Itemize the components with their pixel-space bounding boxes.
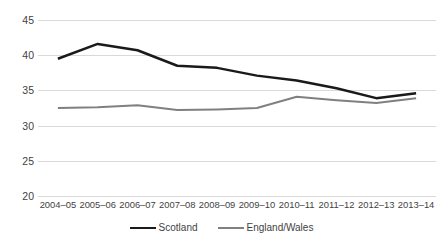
y-tick-label: 30 bbox=[6, 121, 34, 131]
series-layer bbox=[38, 20, 436, 196]
chart-legend: ScotlandEngland/Wales bbox=[0, 218, 443, 238]
x-tick-label: 2004–05 bbox=[38, 198, 78, 214]
legend-swatch-icon bbox=[218, 227, 244, 229]
y-tick-label: 45 bbox=[6, 15, 34, 25]
gridline bbox=[38, 196, 436, 197]
x-tick-label: 2009–10 bbox=[237, 198, 277, 214]
legend-item[interactable]: England/Wales bbox=[218, 222, 314, 234]
x-tick-label: 2005–06 bbox=[78, 198, 118, 214]
y-tick-label: 40 bbox=[6, 50, 34, 60]
legend-label: Scotland bbox=[159, 222, 198, 234]
x-axis: 2004–052005–062006–072007–082008–092009–… bbox=[38, 198, 436, 214]
series-line-scotland bbox=[58, 44, 416, 98]
x-tick-label: 2010–11 bbox=[277, 198, 317, 214]
y-tick-label: 25 bbox=[6, 156, 34, 166]
x-tick-label: 2012–13 bbox=[356, 198, 396, 214]
y-tick-label: 20 bbox=[6, 191, 34, 201]
x-tick-label: 2008–09 bbox=[197, 198, 237, 214]
x-tick-label: 2007–08 bbox=[157, 198, 197, 214]
y-axis: 454035302520 bbox=[0, 20, 34, 196]
x-tick-label: 2006–07 bbox=[118, 198, 158, 214]
line-chart: 454035302520 2004–052005–062006–072007–0… bbox=[0, 0, 443, 246]
x-tick-label: 2011–12 bbox=[317, 198, 357, 214]
legend-swatch-icon bbox=[130, 227, 156, 229]
plot-area bbox=[38, 20, 436, 196]
x-tick-label: 2013–14 bbox=[396, 198, 436, 214]
series-line-england-wales bbox=[58, 97, 416, 110]
y-tick-label: 35 bbox=[6, 85, 34, 95]
legend-item[interactable]: Scotland bbox=[130, 222, 198, 234]
legend-label: England/Wales bbox=[247, 222, 314, 234]
